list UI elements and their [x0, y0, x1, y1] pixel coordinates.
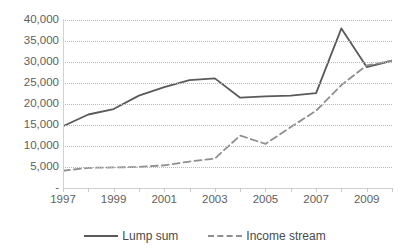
x-tick-mark	[88, 188, 89, 192]
x-tick-mark	[190, 188, 191, 192]
x-tick-mark	[63, 188, 64, 192]
dashed-line-icon	[208, 235, 242, 237]
x-tick-mark	[291, 188, 292, 192]
x-tick-label: 2001	[141, 193, 187, 205]
x-tick-label: 2009	[344, 193, 390, 205]
legend-label: Income stream	[246, 230, 325, 243]
x-tick-mark	[367, 188, 368, 192]
x-tick-mark	[341, 188, 342, 192]
x-tick-mark	[139, 188, 140, 192]
x-tick-label: 1997	[40, 193, 86, 205]
x-tick-mark	[240, 188, 241, 192]
legend-item-lump-sum[interactable]: Lump sum	[84, 230, 178, 243]
x-tick-mark	[164, 188, 165, 192]
x-tick-label: 2003	[192, 193, 238, 205]
x-tick-label: 2007	[293, 193, 339, 205]
x-tick-label: 2005	[242, 193, 288, 205]
legend-item-income-stream[interactable]: Income stream	[208, 230, 325, 243]
line-chart: -5,00010,00015,00020,00025,00030,00035,0…	[0, 0, 410, 252]
x-tick-mark	[114, 188, 115, 192]
chart-legend: Lump sumIncome stream	[0, 224, 410, 248]
x-tick-label: 1999	[91, 193, 137, 205]
x-tick-mark	[265, 188, 266, 192]
x-axis-labels: 1997199920012003200520072009	[0, 0, 410, 252]
legend-label: Lump sum	[122, 230, 178, 243]
x-tick-mark	[215, 188, 216, 192]
x-tick-mark	[392, 188, 393, 192]
x-tick-mark	[316, 188, 317, 192]
solid-line-icon	[84, 235, 118, 237]
